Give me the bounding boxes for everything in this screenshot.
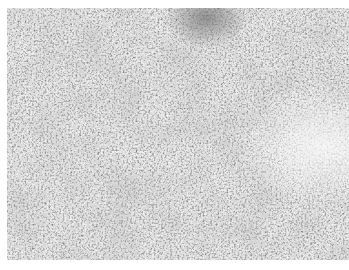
- histology-micrograph: [7, 8, 349, 260]
- tissue-texture: [7, 8, 349, 260]
